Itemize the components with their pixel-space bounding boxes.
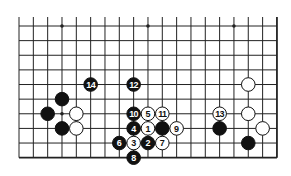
white-stone: 9 [170, 122, 184, 136]
star-point [60, 24, 64, 28]
black-stone [156, 122, 170, 136]
move-number-label: 14 [86, 80, 95, 90]
move-number-label: 5 [145, 109, 150, 119]
white-stone: 7 [156, 136, 170, 150]
move-number-label: 8 [131, 153, 136, 163]
black-stone: 8 [127, 151, 141, 165]
black-stone: 4 [127, 122, 141, 136]
star-point [60, 112, 64, 116]
move-number-label: 9 [174, 124, 179, 134]
stone-circle [55, 92, 69, 106]
white-stone [256, 122, 270, 136]
black-stone [241, 136, 255, 150]
black-stone [55, 122, 69, 136]
move-number-label: 4 [131, 124, 136, 134]
stone-circle [55, 122, 69, 136]
black-stone [41, 107, 55, 121]
star-point [146, 24, 150, 28]
white-stone [241, 78, 255, 92]
stone-circle [156, 122, 170, 136]
stone-circle [241, 107, 255, 121]
black-stone: 12 [127, 78, 141, 92]
black-stone: 6 [113, 136, 127, 150]
black-stone: 14 [84, 78, 98, 92]
move-number-label: 1 [145, 124, 150, 134]
move-number-label: 11 [158, 109, 167, 119]
white-stone: 1 [141, 122, 155, 136]
stone-circle [70, 122, 84, 136]
black-stone [213, 122, 227, 136]
move-number-label: 12 [129, 80, 138, 90]
stone-circle [241, 136, 255, 150]
white-stone [70, 107, 84, 121]
move-number-label: 3 [131, 138, 136, 148]
white-stone [70, 122, 84, 136]
move-number-label: 7 [160, 138, 165, 148]
white-stone [241, 107, 255, 121]
stones: 1412105111341963278 [41, 78, 270, 165]
black-stone: 2 [141, 136, 155, 150]
stone-circle [70, 107, 84, 121]
move-number-label: 13 [215, 109, 224, 119]
stone-circle [241, 78, 255, 92]
stone-circle [256, 122, 270, 136]
black-stone: 10 [127, 107, 141, 121]
white-stone: 11 [156, 107, 170, 121]
white-stone: 5 [141, 107, 155, 121]
go-board: 1412105111341963278 [0, 0, 291, 176]
move-number-label: 10 [129, 109, 138, 119]
stone-circle [213, 122, 227, 136]
white-stone: 3 [127, 136, 141, 150]
move-number-label: 2 [145, 138, 150, 148]
white-stone: 13 [213, 107, 227, 121]
star-point [232, 24, 236, 28]
black-stone [55, 92, 69, 106]
move-number-label: 6 [117, 138, 122, 148]
stone-circle [41, 107, 55, 121]
